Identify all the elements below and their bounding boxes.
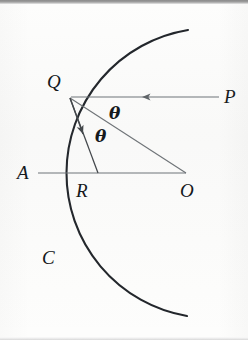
label-angle-incidence: θ [109,105,120,122]
label-point-C: C [42,248,55,267]
label-point-R: R [76,181,88,200]
label-point-Q: Q [47,72,61,91]
geometry-figure [0,0,248,340]
figure-page: Q P A R O C θ θ [0,0,248,340]
label-point-P: P [224,87,236,106]
radius-line-QO [70,98,186,173]
label-point-O: O [180,181,194,200]
label-point-A: A [17,163,29,182]
label-angle-reflection: θ [95,128,106,145]
reflected-ray-line [70,98,98,173]
